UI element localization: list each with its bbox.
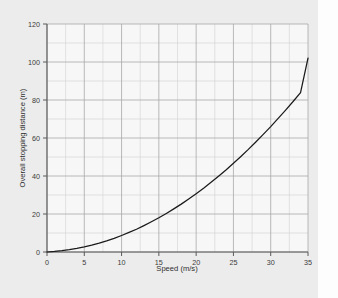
figure-page: 020406080100120 05101520253035 Speed (m/…: [0, 0, 338, 298]
x-tick-label: 25: [229, 258, 237, 267]
y-tick-label: 100: [28, 58, 40, 67]
page-right-margin: [318, 0, 338, 298]
x-tick-label: 10: [118, 258, 126, 267]
y-tick-label: 0: [36, 248, 40, 257]
stopping-distance-chart: 020406080100120 05101520253035 Speed (m/…: [0, 0, 318, 298]
y-axis-tick-labels: 020406080100120: [28, 20, 40, 257]
y-tick-label: 80: [32, 96, 40, 105]
x-axis-title: Speed (m/s): [156, 264, 198, 273]
y-tick-label: 20: [32, 210, 40, 219]
y-tick-label: 120: [28, 20, 40, 29]
y-axis-ticks: [43, 24, 47, 252]
x-tick-label: 35: [304, 258, 312, 267]
y-axis-title: Overall stopping distance (m): [18, 88, 27, 187]
x-tick-label: 5: [82, 258, 86, 267]
x-tick-label: 30: [267, 258, 275, 267]
y-tick-label: 40: [32, 172, 40, 181]
y-tick-label: 60: [32, 134, 40, 143]
x-axis-ticks: [47, 252, 308, 256]
chart-svg: 020406080100120 05101520253035 Speed (m/…: [0, 0, 318, 298]
x-tick-label: 0: [45, 258, 49, 267]
